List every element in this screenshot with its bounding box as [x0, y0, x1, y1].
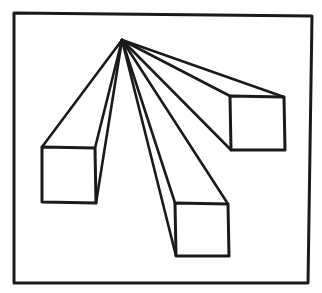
perspective-diagram — [0, 0, 322, 293]
left-box-ray — [42, 40, 122, 147]
bottom-box-ray — [122, 40, 176, 256]
right-box-ray — [122, 40, 231, 150]
bottom-box-ray — [122, 40, 228, 204]
left-box-ray — [96, 40, 122, 203]
right-box — [230, 96, 285, 150]
bottom-box — [175, 203, 229, 256]
right-box-ray — [122, 40, 284, 97]
left-box — [42, 147, 96, 203]
boxes — [42, 96, 285, 256]
